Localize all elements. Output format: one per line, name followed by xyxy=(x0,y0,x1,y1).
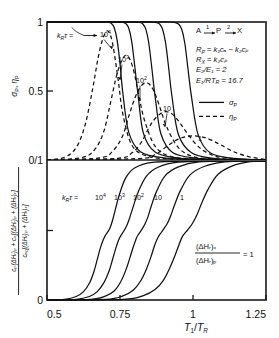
curve-label-lower: 103 xyxy=(114,192,125,202)
reaction-step-1: 1 xyxy=(206,24,209,30)
legend-label: ηP xyxy=(229,112,237,122)
y-label-denominator: cₐ₀[(ΔHᵣ)ₚ + (ΔHᵣ)ₓ] xyxy=(21,204,29,257)
curve-label-lower: 102 xyxy=(133,192,144,202)
x-tick-label: 1 xyxy=(190,308,196,320)
curve-family-label-upper: kRτ = xyxy=(57,31,73,41)
equation-line: E₂/E₁ = 2 xyxy=(196,65,227,74)
lower-panel-curves xyxy=(47,161,266,300)
curve-label-lower: 1 xyxy=(180,193,184,202)
upper-panel-curves xyxy=(47,22,266,160)
equation-line: RX = k₂cₚ xyxy=(196,55,228,65)
curve-label-upper: 102 xyxy=(136,75,147,85)
y-tick-label-upper: 0/1 xyxy=(28,154,43,166)
curve-label-upper: 10 xyxy=(163,104,171,113)
curve-family-label-lower: kRτ = xyxy=(62,193,78,203)
y-tick-label-upper: 1 xyxy=(37,16,43,28)
y-tick-label-upper: 0.5 xyxy=(28,85,43,97)
x-tick-label: 0.75 xyxy=(110,308,131,320)
leader-arrowhead xyxy=(94,34,97,37)
y-axis-label-lower: cₚ(ΔHᵣ)ₚ + cₓ[(ΔHᵣ)ₚ + (ΔHᵣ)ₓ]cₐ₀[(ΔHᵣ)ₚ… xyxy=(10,167,29,295)
legend-label: σP xyxy=(229,98,238,108)
curve-label-upper: 1 xyxy=(198,134,202,143)
curve-conversion xyxy=(47,161,266,300)
annotation-equals: = 1 xyxy=(243,250,254,259)
equation-line: RP = k₁cₐ − k₂cₚ xyxy=(196,45,249,55)
curve-label-lower: 104 xyxy=(95,192,106,202)
y-axis-label-upper: σP, ηP xyxy=(10,75,20,97)
y-label-numerator: cₚ(ΔHᵣ)ₚ + cₓ[(ΔHᵣ)ₚ + (ΔHᵣ)ₓ] xyxy=(10,190,18,272)
reaction-species-x: X xyxy=(237,26,242,35)
reaction-species-p: P xyxy=(216,26,221,35)
annotation-numerator: (ΔHᵣ)ₓ xyxy=(196,242,216,251)
x-tick-label: 1.25 xyxy=(246,308,267,320)
curve-label-upper: 104 xyxy=(100,29,111,39)
y-tick-label-lower: 0 xyxy=(37,294,43,306)
x-axis-label: T1/TR xyxy=(184,321,208,334)
chart-svg: 0.50.7511.2510.50/10kRτ = 104103102101A1… xyxy=(0,0,279,338)
leader-hook xyxy=(72,28,84,36)
curve-label-upper: 103 xyxy=(118,54,129,64)
reaction-arrowhead-1 xyxy=(212,32,215,35)
reaction-species-a: A xyxy=(196,26,202,35)
curve-conversion xyxy=(47,161,266,300)
annotation-denominator: (ΔHᵣ)ₚ xyxy=(196,256,216,265)
curve-conversion xyxy=(47,161,266,300)
curve-conversion xyxy=(47,161,266,300)
reaction-arrowhead-2 xyxy=(233,32,236,35)
curve-conversion xyxy=(47,161,266,300)
figure-root: 0.50.7511.2510.50/10kRτ = 104103102101A1… xyxy=(0,0,279,338)
equation-line: E₁/RTR = 16.7 xyxy=(196,76,244,86)
svg-text:σP, ηP: σP, ηP xyxy=(10,75,20,97)
x-tick-label: 0.5 xyxy=(47,308,62,320)
curve-label-lower: 10 xyxy=(154,193,162,202)
curve-label-leader xyxy=(104,40,112,50)
reaction-step-2: 2 xyxy=(227,24,230,30)
labels: 0.50.7511.2510.50/10kRτ = 104103102101A1… xyxy=(10,16,266,334)
